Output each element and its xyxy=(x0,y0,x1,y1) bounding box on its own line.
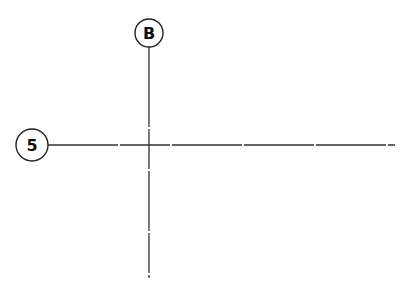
gridline-5-label: 5 xyxy=(26,136,37,155)
gridline-b-label: B xyxy=(143,24,155,43)
gridline-b: B xyxy=(135,19,163,278)
grid-diagram: B 5 xyxy=(0,0,412,294)
gridline-5: 5 xyxy=(16,129,395,161)
